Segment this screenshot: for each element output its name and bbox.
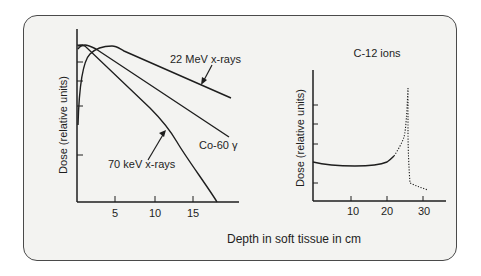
- label-co60: Co-60 γ: [199, 139, 238, 151]
- arrow-70kev: [148, 133, 164, 160]
- x-axis-label: Depth in soft tissue in cm: [227, 232, 361, 246]
- charts-canvas: 22 MeV x-rays Co-60 γ 70 keV x-rays 5 10…: [0, 0, 481, 276]
- curve-70kev: [78, 45, 217, 202]
- label-22mev: 22 MeV x-rays: [170, 53, 241, 65]
- left-tick-10: 10: [149, 207, 161, 219]
- right-chart: [313, 70, 446, 201]
- right-tick-20: 20: [381, 205, 393, 217]
- right-y-label: Dose (relative units): [294, 89, 306, 187]
- left-tick-15: 15: [187, 207, 199, 219]
- right-chart-title: C-12 ions: [353, 47, 401, 59]
- left-y-label: Dose (relative units): [57, 76, 69, 174]
- label-70kev: 70 keV x-rays: [108, 158, 176, 170]
- left-tick-5: 5: [112, 207, 118, 219]
- right-tick-10: 10: [347, 205, 359, 217]
- curve-c12-solid: [313, 156, 394, 166]
- right-tick-30: 30: [418, 205, 430, 217]
- curve-c12-peak: [394, 88, 428, 190]
